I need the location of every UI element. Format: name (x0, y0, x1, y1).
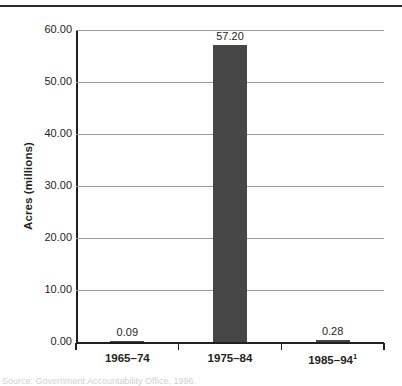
x-axis-tick (383, 343, 384, 350)
y-tick-label: 50.00 (8, 75, 72, 87)
x-category-label: 1985–941 (283, 352, 383, 366)
x-category-label: 1975–84 (180, 352, 280, 364)
bar-value-label: 0.28 (293, 325, 373, 337)
y-axis-tick-labels: 0.0010.0020.0030.0040.0050.0060.00 (4, 0, 72, 386)
x-axis-tick (75, 343, 76, 350)
bar[interactable] (110, 341, 144, 342)
x-axis-tick (178, 343, 179, 350)
source-footnote: Source: Government Accountability Office… (2, 376, 400, 386)
bar[interactable] (213, 45, 247, 342)
x-axis-tick (281, 343, 282, 350)
y-tick-label: 30.00 (8, 179, 72, 191)
plot-area (76, 30, 384, 342)
y-tick-label: 0.00 (8, 335, 72, 347)
footnote-marker: 1 (353, 352, 357, 361)
y-tick-label: 60.00 (8, 23, 72, 35)
bar-value-label: 57.20 (190, 30, 270, 42)
y-tick-label: 10.00 (8, 283, 72, 295)
x-category-label: 1965–74 (77, 352, 177, 364)
y-tick-label: 20.00 (8, 231, 72, 243)
bar-chart-figure: Acres (millions) 0.0010.0020.0030.0040.0… (0, 0, 402, 386)
bar-value-label: 0.09 (87, 326, 167, 338)
x-axis-baseline (76, 342, 384, 344)
y-tick-label: 40.00 (8, 127, 72, 139)
bar[interactable] (316, 340, 350, 342)
